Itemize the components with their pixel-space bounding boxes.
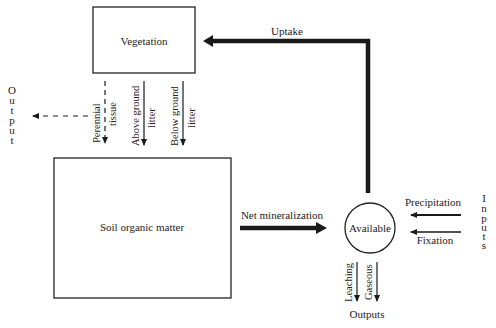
net-mineralization-label: Net mineralization xyxy=(241,209,324,221)
uptake-arrowhead-icon xyxy=(203,35,213,47)
vegetation-label: Vegetation xyxy=(120,35,168,47)
fixation-label: Fixation xyxy=(417,234,454,246)
below-ground-litter-flow: Below ground litter xyxy=(169,81,197,146)
gaseous-label: Gaseous xyxy=(363,264,374,300)
svg-text:t: t xyxy=(10,134,13,146)
perennial-label: Perennial xyxy=(91,103,102,143)
uptake-label: Uptake xyxy=(271,25,303,37)
svg-text:s: s xyxy=(482,239,486,251)
above-ground-label: Above ground xyxy=(130,85,141,146)
leaching-label: Leaching xyxy=(343,262,354,302)
vegetation-node: Vegetation xyxy=(93,7,195,73)
net-mineralization-arrowhead-icon xyxy=(316,222,327,234)
net-mineralization-flow: Net mineralization xyxy=(240,209,327,234)
uptake-flow: Uptake xyxy=(203,25,368,193)
precipitation-flow: Precipitation xyxy=(405,196,462,215)
soil-organic-matter-label: Soil organic matter xyxy=(100,221,184,233)
above-litter-label: litter xyxy=(146,108,157,128)
below-ground-label: Below ground xyxy=(169,85,180,146)
gaseous-flow: Gaseous xyxy=(363,262,377,301)
fixation-flow: Fixation xyxy=(411,232,461,246)
tissue-label: tissue xyxy=(107,102,118,126)
output-left-label: O u t p u t xyxy=(8,84,16,146)
available-pool-node: Available xyxy=(345,203,395,253)
inputs-right-label: I n p u t s xyxy=(481,192,487,251)
perennial-tissue-flow: Perennial tissue xyxy=(33,81,118,143)
outputs-bottom-label: Outputs xyxy=(350,308,385,320)
nutrient-cycle-diagram: Vegetation Soil organic matter Available… xyxy=(0,0,496,328)
available-label: Available xyxy=(349,222,391,234)
leaching-flow: Leaching xyxy=(343,262,357,302)
precipitation-label: Precipitation xyxy=(405,196,462,208)
below-litter-label: litter xyxy=(186,108,197,128)
soil-organic-matter-node: Soil organic matter xyxy=(54,158,231,298)
above-ground-litter-flow: Above ground litter xyxy=(130,81,157,146)
